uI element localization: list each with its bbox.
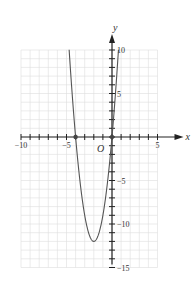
x-tick-label: −5: [62, 141, 71, 150]
y-tick-label: −5: [117, 177, 126, 186]
x-axis-label: x: [185, 131, 191, 142]
x-tick-label: −10: [15, 141, 28, 150]
y-tick-label: −10: [117, 220, 130, 229]
y-axis-label: y: [112, 22, 118, 33]
y-tick-label: 10: [117, 46, 125, 55]
intercept-point: [110, 135, 114, 139]
origin-label: O: [97, 143, 104, 154]
y-tick-label: −15: [117, 264, 130, 273]
y-tick-label: 5: [117, 90, 121, 99]
x-tick-label: 5: [156, 141, 160, 150]
x-axis-arrow-icon: [175, 134, 184, 140]
intercept-point: [73, 135, 77, 139]
y-axis-arrow-icon: [109, 34, 115, 43]
parabola-graph: −10−55105−5−10−15xyO: [0, 0, 195, 298]
